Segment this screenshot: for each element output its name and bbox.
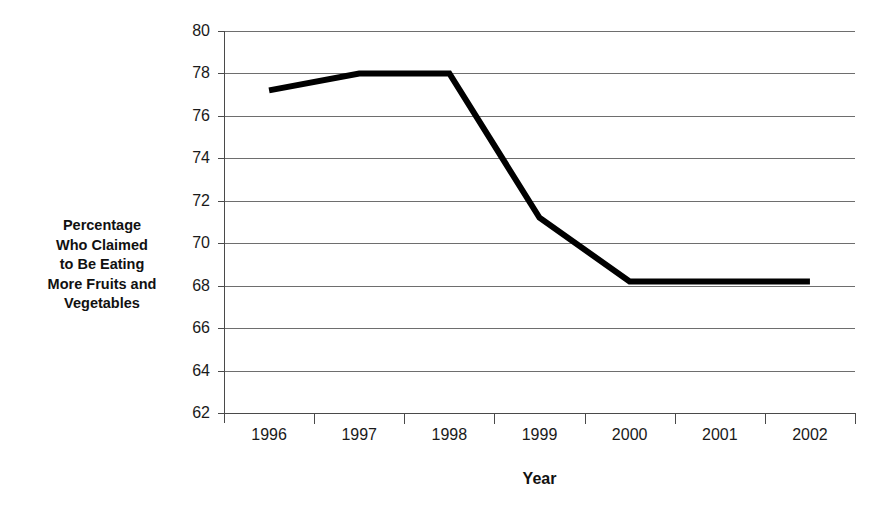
y-tick-label: 64	[164, 363, 210, 379]
y-tick-label: 70	[164, 235, 210, 251]
x-tick-label: 2000	[585, 426, 675, 444]
x-tick-mark	[314, 413, 315, 424]
gridline-y	[224, 158, 855, 159]
x-tick-label: 2002	[765, 426, 855, 444]
y-tick-mark	[218, 31, 224, 32]
y-tick-mark	[218, 201, 224, 202]
gridline-y	[224, 286, 855, 287]
gridline-y	[224, 371, 855, 372]
y-tick-label: 62	[164, 405, 210, 421]
y-axis-title-line-4: More Fruits and	[18, 275, 186, 295]
x-tick-mark	[765, 413, 766, 424]
gridline-y	[224, 328, 855, 329]
x-tick-label: 2001	[675, 426, 765, 444]
x-tick-label: 1998	[404, 426, 494, 444]
y-tick-mark	[218, 243, 224, 244]
gridline-y	[224, 243, 855, 244]
x-axis-title: Year	[224, 470, 855, 488]
gridline-y	[224, 116, 855, 117]
y-tick-mark	[218, 73, 224, 74]
gridline-y	[224, 73, 855, 74]
x-tick-label: 1997	[314, 426, 404, 444]
y-tick-mark	[218, 328, 224, 329]
y-tick-label: 76	[164, 108, 210, 124]
y-tick-label: 80	[164, 23, 210, 39]
y-tick-label: 66	[164, 320, 210, 336]
y-tick-label: 78	[164, 65, 210, 81]
x-tick-mark	[224, 413, 225, 419]
y-axis-title-line-2: Who Claimed	[18, 236, 186, 256]
y-tick-mark	[218, 371, 224, 372]
x-tick-mark	[855, 413, 856, 424]
x-tick-mark	[404, 413, 405, 424]
line-chart-figure: Percentage Who Claimed to Be Eating More…	[0, 0, 886, 507]
y-axis-title-line-1: Percentage	[18, 216, 186, 236]
x-tick-label: 1996	[224, 426, 314, 444]
y-axis-title: Percentage Who Claimed to Be Eating More…	[18, 216, 186, 314]
y-tick-label: 72	[164, 193, 210, 209]
y-axis-title-line-3: to Be Eating	[18, 255, 186, 275]
y-tick-mark	[218, 286, 224, 287]
x-tick-mark	[675, 413, 676, 424]
y-axis-line	[224, 31, 225, 423]
x-tick-mark	[585, 413, 586, 424]
plot-area	[224, 31, 855, 413]
gridline-y	[224, 31, 855, 32]
x-tick-mark	[494, 413, 495, 424]
y-tick-label: 68	[164, 278, 210, 294]
x-axis-line	[224, 413, 855, 414]
y-tick-label: 74	[164, 150, 210, 166]
y-tick-mark	[218, 116, 224, 117]
y-axis-title-line-5: Vegetables	[18, 294, 186, 314]
y-tick-mark	[218, 158, 224, 159]
gridline-y	[224, 201, 855, 202]
x-tick-label: 1999	[495, 426, 585, 444]
